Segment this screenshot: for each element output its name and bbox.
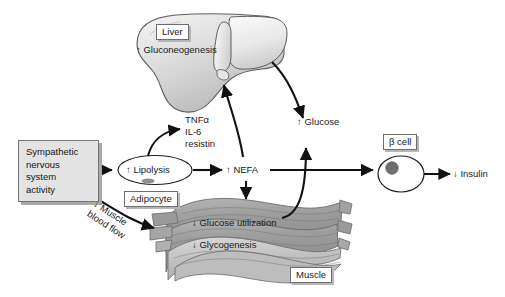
- nefa-label: ↑ NEFA: [226, 164, 258, 176]
- cytokine-resistin-label: resistin: [185, 138, 215, 150]
- arrow-lipolysis-cytokines: [148, 129, 180, 156]
- cytokine-il6-label: IL-6: [185, 126, 201, 138]
- pathway-diagram: Sympathetic nervous system activity ↑ Li…: [0, 0, 505, 297]
- gluconeogenesis-label: ↑ Gluconeogenesis: [136, 44, 217, 56]
- glycogenesis-label: ↓ Glycogenesis: [192, 239, 256, 251]
- arrow-nefa-liver: [224, 85, 243, 157]
- glucose-utilization-label: ↓ Glucose utilization: [192, 217, 276, 229]
- arrow-liver-glucose: [272, 62, 303, 118]
- insulin-label: ↓ Insulin: [453, 168, 488, 180]
- liver-label: Liver: [156, 24, 189, 40]
- beta-cell-label: β cell: [383, 134, 417, 150]
- muscle-label: Muscle: [290, 267, 332, 283]
- lipolysis-label: ↑ Lipolysis: [126, 164, 170, 176]
- adipocyte-label: Adipocyte: [124, 191, 178, 207]
- sympathetic-nervous-system-box: Sympathetic nervous system activity: [18, 140, 99, 202]
- glucose-label: ↑ Glucose: [297, 116, 339, 128]
- cytokine-tnfa-label: TNFα: [185, 114, 209, 126]
- beta-cell-shape: [378, 156, 424, 192]
